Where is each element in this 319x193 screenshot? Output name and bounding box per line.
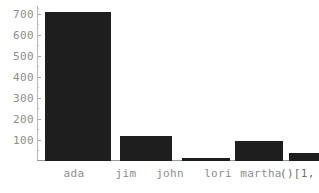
plot-area [37,0,319,161]
y-tick-label-200: 200 [4,114,34,125]
x-label-lori: lori [197,168,239,180]
bar-chart: 700 600 500 400 300 200 100 ada jim john… [0,0,319,193]
y-tick-label-500: 500 [4,51,34,62]
trailing-expression: ()[1, 1] [280,168,319,180]
x-label-john: john [147,168,193,180]
y-tick-label-700: 700 [4,9,34,20]
x-label-jim: jim [109,168,143,180]
bar-martha [289,153,319,161]
bar-ada [45,12,111,161]
x-label-ada: ada [54,168,94,180]
y-tick-label-400: 400 [4,72,34,83]
y-tick-label-300: 300 [4,93,34,104]
y-tick-label-600: 600 [4,30,34,41]
bar-john [182,158,230,161]
y-tick-label-100: 100 [4,135,34,146]
bar-lori [235,141,283,161]
bar-jim [120,136,172,161]
x-label-martha: martha [237,168,285,180]
